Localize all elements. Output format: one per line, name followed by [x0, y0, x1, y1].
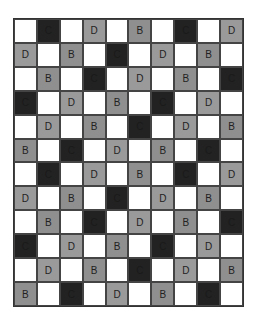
grid-cell-empty: [60, 19, 83, 43]
grid-cell-b: B: [151, 139, 174, 163]
grid-cell-d: D: [220, 19, 243, 43]
grid-cell-c: C: [37, 19, 60, 43]
grid-cell-b: B: [197, 43, 220, 67]
grid-cell-d: D: [151, 43, 174, 67]
grid-cell-b: B: [106, 91, 129, 115]
grid-cell-c: C: [83, 67, 106, 91]
grid-cell-empty: [174, 91, 197, 115]
grid-cell-b: B: [83, 258, 106, 282]
grid-cell-empty: [106, 210, 129, 234]
grid-cell-d: D: [174, 258, 197, 282]
grid-cell-b: B: [37, 67, 60, 91]
grid-cell-empty: [151, 67, 174, 91]
grid-cell-empty: [60, 210, 83, 234]
grid-cell-c: C: [220, 67, 243, 91]
grid-cell-empty: [60, 115, 83, 139]
grid-cell-empty: [151, 258, 174, 282]
grid-cell-empty: [14, 19, 37, 43]
grid-cell-empty: [83, 139, 106, 163]
grid-cell-b: B: [174, 210, 197, 234]
grid-cell-d: D: [128, 67, 151, 91]
grid-cell-empty: [128, 43, 151, 67]
grid-cell-b: B: [174, 67, 197, 91]
grid-cell-b: B: [220, 258, 243, 282]
grid-cell-d: D: [197, 234, 220, 258]
grid-cell-empty: [220, 234, 243, 258]
grid-cell-empty: [37, 186, 60, 210]
grid-cell-c: C: [128, 115, 151, 139]
grid-cell-empty: [174, 186, 197, 210]
grid-cell-c: C: [151, 91, 174, 115]
grid-cell-c: C: [83, 210, 106, 234]
grid-cell-d: D: [151, 186, 174, 210]
grid-cell-empty: [37, 43, 60, 67]
grid-cell-d: D: [106, 139, 129, 163]
grid-cell-empty: [60, 67, 83, 91]
grid-cell-b: B: [60, 43, 83, 67]
grid-cell-b: B: [128, 162, 151, 186]
grid-cell-empty: [106, 19, 129, 43]
grid-cell-empty: [60, 162, 83, 186]
grid-cell-empty: [197, 162, 220, 186]
grid-cell-d: D: [60, 91, 83, 115]
grid-cell-d: D: [174, 115, 197, 139]
grid-cell-empty: [14, 162, 37, 186]
grid-cell-b: B: [197, 186, 220, 210]
grid-cell-empty: [174, 139, 197, 163]
grid-cell-b: B: [14, 139, 37, 163]
grid-cell-d: D: [14, 43, 37, 67]
grid-cell-d: D: [14, 186, 37, 210]
grid-cell-c: C: [60, 139, 83, 163]
grid-cell-b: B: [37, 210, 60, 234]
grid-cell-empty: [128, 282, 151, 306]
grid-cell-empty: [83, 282, 106, 306]
letter-grid: CDBCDDBCDBBCDBCCDBCDDBCDBBCDBCCDBCDDBCDB…: [13, 18, 244, 307]
grid-cell-empty: [37, 234, 60, 258]
grid-cell-empty: [220, 186, 243, 210]
grid-cell-empty: [83, 234, 106, 258]
grid-cell-empty: [174, 43, 197, 67]
grid-cell-b: B: [60, 186, 83, 210]
grid-cell-b: B: [128, 19, 151, 43]
grid-cell-empty: [106, 67, 129, 91]
grid-cell-b: B: [151, 282, 174, 306]
grid-cell-empty: [151, 115, 174, 139]
grid-cell-empty: [128, 91, 151, 115]
grid-cell-c: C: [60, 282, 83, 306]
grid-cell-c: C: [174, 162, 197, 186]
grid-cell-empty: [220, 282, 243, 306]
grid-cell-d: D: [197, 91, 220, 115]
grid-cell-c: C: [197, 282, 220, 306]
grid-cell-empty: [106, 258, 129, 282]
grid-cell-c: C: [220, 210, 243, 234]
grid-cell-empty: [14, 115, 37, 139]
grid-cell-d: D: [83, 162, 106, 186]
grid-cell-c: C: [106, 186, 129, 210]
grid-cell-c: C: [37, 162, 60, 186]
grid-cell-empty: [151, 210, 174, 234]
grid-cell-c: C: [128, 258, 151, 282]
grid-cell-empty: [37, 91, 60, 115]
grid-cell-empty: [174, 282, 197, 306]
grid-cell-empty: [128, 234, 151, 258]
grid-cell-empty: [197, 210, 220, 234]
grid-cell-empty: [60, 258, 83, 282]
grid-cell-empty: [220, 91, 243, 115]
grid-cell-empty: [197, 19, 220, 43]
grid-cell-d: D: [83, 19, 106, 43]
grid-cell-empty: [220, 139, 243, 163]
grid-cell-empty: [37, 139, 60, 163]
grid-cell-empty: [197, 67, 220, 91]
grid-cell-empty: [220, 43, 243, 67]
grid-cell-empty: [83, 43, 106, 67]
grid-cell-empty: [197, 258, 220, 282]
grid-cell-d: D: [60, 234, 83, 258]
grid-cell-empty: [151, 162, 174, 186]
grid-cell-d: D: [37, 115, 60, 139]
grid-cell-empty: [128, 186, 151, 210]
grid-cell-c: C: [174, 19, 197, 43]
grid-cell-b: B: [220, 115, 243, 139]
grid-cell-empty: [197, 115, 220, 139]
grid-cell-d: D: [37, 258, 60, 282]
grid-cell-c: C: [106, 43, 129, 67]
